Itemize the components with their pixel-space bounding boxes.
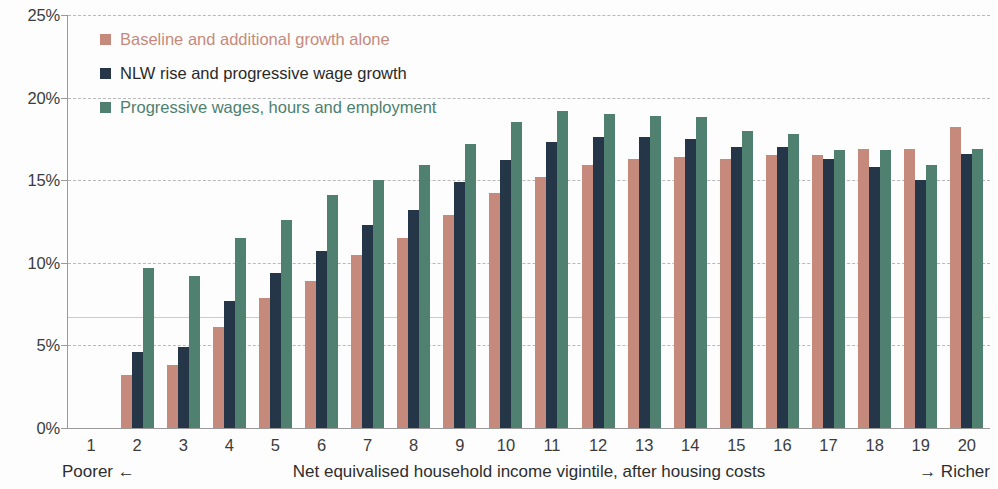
bar	[373, 180, 384, 428]
bar	[720, 159, 731, 428]
bar	[408, 210, 419, 428]
bar	[582, 165, 593, 428]
bar	[419, 165, 430, 428]
bar	[270, 273, 281, 428]
bar	[904, 149, 915, 428]
y-tick-label: 10%	[6, 253, 60, 272]
x-tick-label: 3	[160, 436, 206, 455]
x-tick-label: 20	[944, 436, 990, 455]
x-tick-label: 13	[621, 436, 667, 455]
bar	[731, 147, 742, 428]
legend-swatch-icon	[100, 68, 111, 79]
bar	[132, 352, 143, 428]
y-tick-mark	[61, 345, 68, 346]
bar	[489, 193, 500, 428]
y-tick-mark	[61, 263, 68, 264]
bar	[443, 215, 454, 428]
bar	[535, 177, 546, 428]
bar	[143, 268, 154, 428]
y-axis-labels: 0%5%10%15%20%25%	[0, 0, 60, 489]
x-tick-label: 18	[852, 436, 898, 455]
bar	[869, 167, 880, 428]
x-axis-title: Net equivalised household income viginti…	[68, 462, 990, 482]
x-tick-label: 1	[68, 436, 114, 455]
x-tick-label: 7	[345, 436, 391, 455]
bar	[696, 117, 707, 428]
bar	[281, 220, 292, 428]
bar-group-17	[806, 15, 852, 428]
bar	[604, 114, 615, 428]
bar	[224, 301, 235, 428]
legend-label-baseline: Baseline and additional growth alone	[120, 30, 390, 49]
x-axis-line	[68, 428, 990, 429]
bar	[454, 182, 465, 428]
bar	[766, 155, 777, 428]
x-tick-label: 19	[898, 436, 944, 455]
bar	[351, 255, 362, 428]
poorer-direction-label: Poorer ←	[62, 462, 135, 482]
bar	[926, 165, 937, 428]
y-tick-label: 25%	[6, 6, 60, 25]
y-tick-label: 20%	[6, 88, 60, 107]
bar	[639, 137, 650, 428]
bar	[628, 159, 639, 428]
legend-label-progressive: Progressive wages, hours and employment	[120, 98, 436, 117]
bar	[362, 225, 373, 428]
bar	[305, 281, 316, 428]
x-tick-label: 15	[713, 436, 759, 455]
bar	[316, 251, 327, 428]
bar-group-19	[898, 15, 944, 428]
x-tick-label: 6	[298, 436, 344, 455]
chart-legend: Baseline and additional growth alone NLW…	[100, 22, 620, 124]
bar	[235, 238, 246, 428]
bar-group-16	[759, 15, 805, 428]
bar	[650, 116, 661, 428]
bar	[685, 139, 696, 428]
legend-label-nlw: NLW rise and progressive wage growth	[120, 64, 407, 83]
bar-chart: 0%5%10%15%20%25% Baseline and additional…	[0, 0, 998, 489]
bar	[500, 160, 511, 428]
x-axis-tick-labels: 1234567891011121314151617181920	[68, 436, 990, 455]
bar	[397, 238, 408, 428]
bar	[167, 365, 178, 428]
x-tick-label: 14	[667, 436, 713, 455]
bar	[593, 137, 604, 428]
x-tick-label: 17	[806, 436, 852, 455]
bar	[557, 111, 568, 428]
bar	[327, 195, 338, 428]
bar	[674, 157, 685, 428]
x-tick-label: 11	[529, 436, 575, 455]
legend-item-baseline: Baseline and additional growth alone	[100, 22, 620, 56]
x-tick-label: 9	[437, 436, 483, 455]
y-tick-label: 0%	[6, 419, 60, 438]
bar	[189, 276, 200, 428]
bar	[950, 127, 961, 428]
bar	[213, 327, 224, 428]
bar	[812, 155, 823, 428]
y-tick-mark	[61, 428, 68, 429]
y-tick-mark	[61, 15, 68, 16]
bar	[465, 144, 476, 428]
bar-group-13	[621, 15, 667, 428]
bar	[915, 180, 926, 428]
x-tick-label: 12	[575, 436, 621, 455]
bar-group-18	[852, 15, 898, 428]
x-tick-label: 16	[759, 436, 805, 455]
y-tick-label: 5%	[6, 336, 60, 355]
x-tick-label: 10	[483, 436, 529, 455]
bar	[777, 147, 788, 428]
bar	[742, 131, 753, 428]
bar	[121, 375, 132, 428]
x-tick-label: 8	[391, 436, 437, 455]
legend-item-nlw: NLW rise and progressive wage growth	[100, 56, 620, 90]
y-tick-mark	[61, 180, 68, 181]
bar	[178, 347, 189, 428]
bar	[546, 142, 557, 428]
bar	[788, 134, 799, 428]
bar	[259, 298, 270, 429]
legend-swatch-icon	[100, 102, 111, 113]
bar	[880, 150, 891, 428]
y-tick-mark	[61, 98, 68, 99]
x-tick-label: 2	[114, 436, 160, 455]
bar-group-14	[667, 15, 713, 428]
